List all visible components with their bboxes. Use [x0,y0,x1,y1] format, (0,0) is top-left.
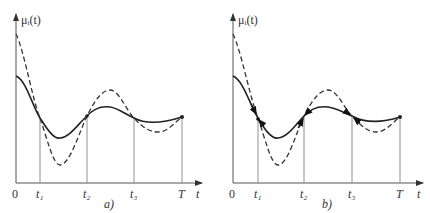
tick-t1: t₁ [36,187,44,201]
tick-t1: t₁ [254,187,262,201]
y-axis-label: μᵢ(t) [238,13,258,27]
dashed-curve [16,34,182,165]
solid-curve [16,76,182,138]
tick-t3: t₃ [130,187,138,201]
tick-t2: t₂ [83,187,91,201]
tick-T: T [396,187,404,201]
panel-b: μᵢ(t) 0 t₁ t₂ t₃ T t b) [229,13,423,211]
node-t2 [85,114,89,118]
panel-a: μᵢ(t) 0 t₁ t₂ t₃ T t a) [12,13,202,211]
node-T [180,115,184,119]
tick-t2: t₂ [300,187,308,201]
x-axis-label: t [417,187,421,201]
y-axis-label: μᵢ(t) [21,13,41,27]
origin-label: 0 [229,187,235,201]
tick-t3: t₃ [348,187,356,201]
x-axis-label: t [196,187,200,201]
node-T [398,115,402,119]
panel-caption: a) [104,197,114,211]
tick-T: T [178,187,186,201]
origin-label: 0 [12,187,18,201]
panel-caption: b) [322,197,332,211]
figure: μᵢ(t) 0 t₁ t₂ t₃ T t a) μᵢ(t) 0 t₁ t₂ t₃… [0,0,430,213]
node-t1 [256,117,260,121]
